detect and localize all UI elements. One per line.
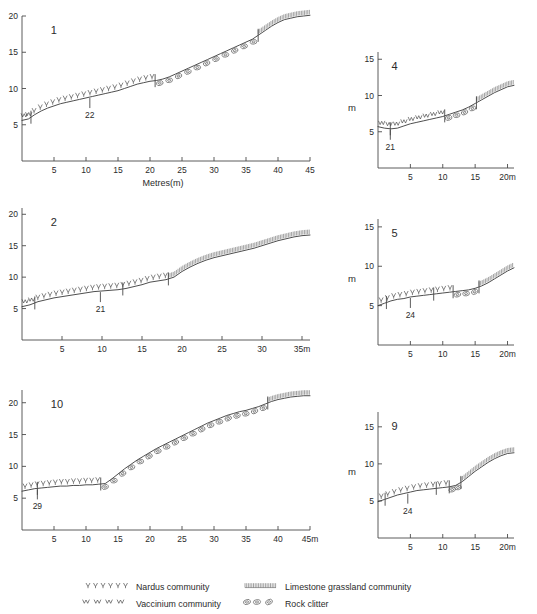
y-tick-label: 10	[9, 272, 19, 282]
vaccinium-symbol	[430, 112, 436, 116]
profile-line	[22, 235, 310, 307]
legend: Nardus community Vaccinium community Lim…	[0, 578, 537, 614]
panel-number: 5	[392, 227, 398, 239]
nardus-symbol	[36, 295, 40, 300]
nardus-symbol	[379, 297, 383, 302]
nardus-symbol	[42, 293, 46, 298]
vaccinium-symbol	[416, 115, 422, 119]
segment-nardus	[23, 477, 100, 489]
segment-vaccinium	[21, 112, 32, 117]
x-tick-label: 5	[52, 165, 57, 175]
sample-marker: 24	[403, 494, 413, 516]
nardus-symbol	[125, 81, 129, 86]
nardus-symbol	[32, 108, 36, 113]
clitter-symbol	[198, 426, 206, 433]
clitter-symbol	[453, 113, 460, 119]
nardus-symbol	[38, 105, 42, 110]
vaccinium-symbol	[401, 119, 407, 123]
panel-9: 5101520m51015m924	[340, 388, 537, 564]
legend-label-limestone: Limestone grassland community	[285, 582, 412, 592]
nardus-symbol	[66, 289, 70, 294]
y-tick-label: 20	[9, 209, 19, 219]
x-tick-label: 10	[438, 542, 448, 552]
nardus-symbol	[423, 288, 427, 293]
profile-line	[378, 453, 514, 502]
x-tick-label: 35m	[294, 344, 311, 354]
y-axis-unit: m	[348, 102, 356, 113]
nardus-symbol	[417, 289, 421, 294]
x-tick-label: 30	[257, 344, 267, 354]
nardus-symbol	[410, 290, 414, 295]
legend-item-nardus: Nardus community	[86, 582, 210, 592]
panel-number: 9	[392, 420, 398, 432]
nardus-symbol	[60, 290, 64, 295]
x-tick-label: 35	[241, 165, 251, 175]
nardus-symbol	[84, 478, 88, 483]
nardus-symbol	[107, 86, 111, 91]
nardus-symbol	[127, 281, 131, 286]
x-tick-label: 10	[81, 534, 91, 544]
x-tick-label: 15	[113, 165, 123, 175]
segment-clitter	[445, 105, 477, 121]
y-tick-label: 5	[13, 493, 18, 503]
vaccinium-symbol	[408, 117, 414, 121]
limestone-symbol	[245, 583, 276, 587]
x-tick-label: 15	[137, 344, 147, 354]
clitter-symbol	[128, 464, 136, 470]
panel-10: 51015202530354045m51015201029	[0, 378, 340, 568]
sample-marker: 22	[85, 98, 95, 120]
nardus-symbol	[119, 83, 123, 88]
legend-label-clitter: Rock clitter	[285, 599, 329, 609]
nardus-symbol	[51, 99, 55, 104]
segment-clitter	[101, 405, 267, 490]
y-tick-label: 10	[9, 461, 19, 471]
segment-limestone	[476, 80, 513, 102]
x-tick-label: 15	[470, 542, 480, 552]
vegetation-transect-figure: 510152025303540455101520Metres(m)122 510…	[0, 0, 537, 614]
nardus-symbol	[54, 291, 58, 296]
nardus-symbol	[442, 286, 446, 291]
community-symbols	[22, 230, 309, 303]
y-tick-label: 10	[9, 84, 19, 94]
clitter-symbol	[453, 291, 461, 297]
nardus-symbol	[379, 494, 383, 499]
x-tick-label: 15	[113, 534, 123, 544]
clitter-symbol	[242, 411, 249, 417]
y-tick-label: 5	[369, 301, 374, 311]
nardus-symbol	[435, 287, 439, 292]
vaccinium-symbol	[393, 122, 399, 126]
nardus-symbol	[150, 74, 154, 79]
nardus-symbol	[94, 89, 98, 94]
nardus-symbol	[398, 292, 402, 297]
x-tick-label: 30	[209, 534, 219, 544]
nardus-symbol	[65, 479, 69, 484]
segment-limestone	[479, 263, 513, 286]
x-tick-label: 40	[273, 534, 283, 544]
nardus-symbol	[53, 480, 57, 485]
nardus-symbol	[47, 480, 51, 485]
legend-item-limestone: Limestone grassland community	[245, 582, 412, 592]
panel-2: 5101520253035m5101520221	[0, 198, 340, 373]
segment-dividers	[390, 96, 476, 135]
x-tick-label: 20	[145, 534, 155, 544]
nardus-symbol	[82, 91, 86, 96]
community-symbols	[21, 10, 309, 117]
y-tick-label: 10	[365, 261, 375, 271]
sample-label: 21	[96, 304, 106, 314]
vaccinium-symbol	[28, 298, 34, 302]
community-symbols	[379, 80, 514, 126]
nardus-symbol	[96, 477, 100, 482]
x-tick-label: 10	[81, 165, 91, 175]
clitter-symbol	[156, 80, 164, 86]
nardus-symbol	[392, 293, 396, 298]
x-tick-label: 5	[408, 542, 413, 552]
community-symbols	[379, 263, 512, 303]
panel-number: 2	[51, 216, 57, 228]
axes: 5101520m51015	[365, 219, 516, 359]
y-tick-label: 15	[365, 422, 375, 432]
nardus-symbol	[97, 284, 101, 289]
y-tick-label: 10	[365, 459, 375, 469]
x-tick-label: 20	[177, 344, 187, 354]
nardus-symbol	[100, 87, 104, 92]
nardus-symbol	[48, 292, 52, 297]
